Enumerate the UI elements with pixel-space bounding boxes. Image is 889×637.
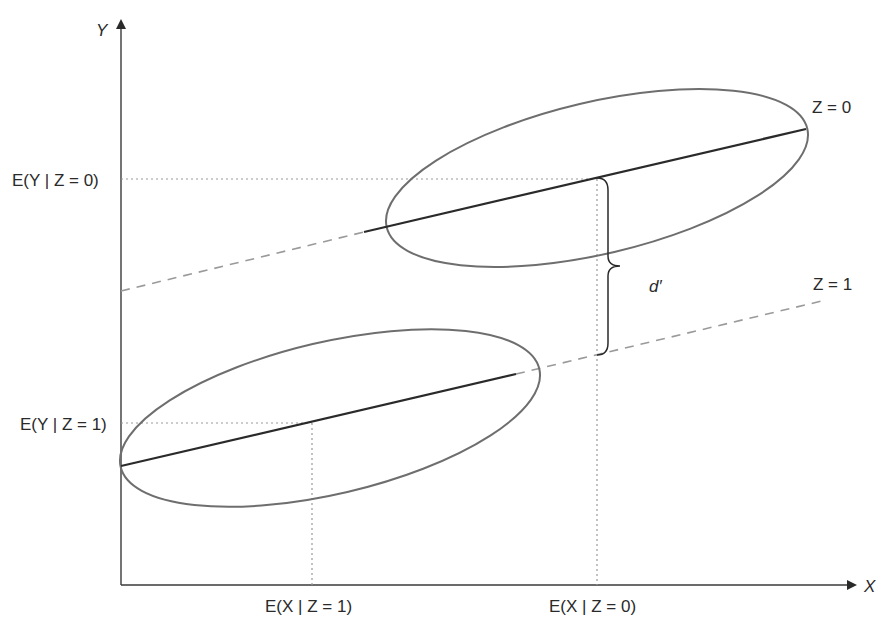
regression-lines (121, 129, 806, 466)
d-prime-brace (597, 178, 620, 355)
z0-group-label: Z = 0 (812, 98, 851, 117)
dashed-extensions (121, 232, 826, 374)
y-axis-label: Y (96, 21, 109, 40)
mean-guides (121, 179, 597, 585)
axes (121, 24, 852, 585)
d-prime-label: d′ (649, 277, 662, 296)
z1-regression-line (121, 374, 516, 466)
z0-regression-line (364, 129, 806, 232)
diagram-canvas: Y X E(Y | Z = 0) E(Y | Z = 1) E(X | Z = … (0, 0, 889, 637)
z0-line-extension (121, 232, 364, 291)
ex-z0-label: E(X | Z = 0) (549, 597, 636, 616)
ey-z0-label: E(Y | Z = 0) (12, 171, 99, 190)
z1-line-extension (516, 300, 826, 374)
z1-group-label: Z = 1 (813, 275, 852, 294)
ellipses (103, 55, 824, 541)
ex-z1-label: E(X | Z = 1) (265, 597, 352, 616)
ey-z1-label: E(Y | Z = 1) (20, 415, 107, 434)
x-axis-label: X (863, 577, 876, 596)
